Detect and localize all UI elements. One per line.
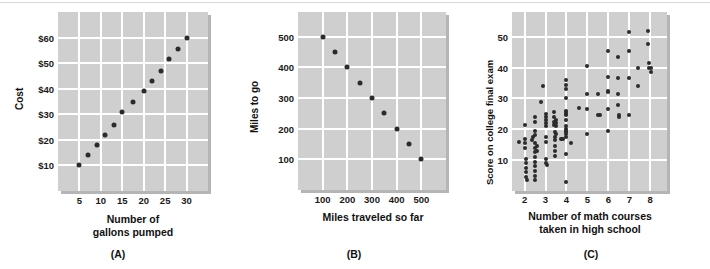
data-point xyxy=(523,137,527,141)
data-point xyxy=(357,80,362,85)
y-axis-tick-label: $30 xyxy=(16,109,54,120)
gridline-vertical xyxy=(346,12,348,190)
gridline-vertical xyxy=(628,12,630,191)
data-point xyxy=(544,124,548,128)
data-point xyxy=(150,79,155,84)
chart-c-plot-area xyxy=(512,12,667,191)
y-axis-tick-label: 10 xyxy=(474,155,508,166)
data-point xyxy=(533,115,537,119)
x-axis-tick-label: 3 xyxy=(543,194,548,205)
chart-b-caption: (B) xyxy=(236,248,472,260)
gridline-horizontal xyxy=(512,67,667,69)
data-point xyxy=(158,68,163,73)
data-point xyxy=(564,152,568,156)
gridline-horizontal xyxy=(58,62,208,64)
data-point xyxy=(533,155,537,159)
data-point xyxy=(533,178,537,182)
data-point xyxy=(77,163,82,168)
data-point xyxy=(176,47,181,52)
data-point xyxy=(86,153,91,158)
data-point xyxy=(103,132,108,137)
data-point xyxy=(606,49,610,53)
data-point xyxy=(646,29,650,33)
data-point xyxy=(524,157,528,161)
data-point xyxy=(111,122,116,127)
data-point xyxy=(569,141,573,145)
data-point xyxy=(523,141,527,145)
x-axis-tick-label: 100 xyxy=(315,194,331,205)
y-axis-tick-label: 400 xyxy=(256,62,294,73)
data-point xyxy=(544,140,548,144)
data-point xyxy=(544,157,548,161)
data-point xyxy=(616,55,620,59)
data-point xyxy=(649,66,653,70)
data-point xyxy=(553,138,557,142)
x-axis-label-line: Miles traveled so far xyxy=(278,211,468,224)
gridline-vertical xyxy=(565,12,567,191)
data-point xyxy=(525,178,529,182)
data-point xyxy=(167,57,172,62)
chart-b-plot-area xyxy=(298,12,446,190)
data-point xyxy=(585,132,589,136)
data-point xyxy=(564,113,568,117)
data-point xyxy=(553,149,557,153)
x-axis-tick-label: 10 xyxy=(96,195,107,206)
chart-a-x-axis-label: Number ofgallons pumped xyxy=(58,213,208,239)
data-point xyxy=(523,146,527,150)
chart-c-y-axis-label: Score on college final exam xyxy=(484,60,495,185)
data-point xyxy=(564,78,568,82)
x-axis-tick-label: 500 xyxy=(413,194,429,205)
y-axis-tick-label: 30 xyxy=(474,93,508,104)
data-point xyxy=(606,90,610,94)
data-point xyxy=(533,174,537,178)
data-point xyxy=(627,30,631,34)
gridline-horizontal xyxy=(298,66,446,68)
data-point xyxy=(616,76,620,80)
gridline-vertical xyxy=(586,12,588,191)
x-axis-label-line: taken in high school xyxy=(490,223,690,236)
data-point xyxy=(545,163,549,167)
x-axis-label-line: Number of xyxy=(58,213,208,226)
data-point xyxy=(94,142,99,147)
chart-c-caption: (C) xyxy=(472,248,710,260)
data-point xyxy=(333,49,338,54)
data-point xyxy=(554,132,558,136)
data-point xyxy=(647,61,651,65)
x-axis-tick-label: 30 xyxy=(181,195,192,206)
chart-b-x-axis-label: Miles traveled so far xyxy=(278,211,468,224)
y-axis-tick-label: 100 xyxy=(256,154,294,165)
data-point xyxy=(382,111,387,116)
data-point xyxy=(141,89,146,94)
data-point xyxy=(533,129,537,133)
gridline-horizontal xyxy=(512,36,667,38)
data-point xyxy=(564,96,568,100)
data-point xyxy=(564,87,568,91)
data-point xyxy=(533,164,537,168)
gridline-horizontal xyxy=(58,113,208,115)
gridline-vertical xyxy=(607,12,609,191)
x-axis-tick-label: 300 xyxy=(364,194,380,205)
gridline-vertical xyxy=(396,12,398,190)
gridline-horizontal xyxy=(58,139,208,141)
data-point xyxy=(564,118,568,122)
chart-a-caption: (A) xyxy=(0,248,236,260)
data-point xyxy=(523,123,527,127)
data-point xyxy=(606,107,610,111)
data-point xyxy=(533,133,537,137)
data-point xyxy=(419,157,424,162)
x-axis-label-line: Number of math courses xyxy=(490,210,690,223)
data-point xyxy=(616,92,620,96)
data-point xyxy=(598,113,602,117)
data-point xyxy=(585,64,589,68)
x-axis-tick-label: 25 xyxy=(160,195,171,206)
x-axis-tick-label: 6 xyxy=(606,194,611,205)
gridline-horizontal xyxy=(58,88,208,90)
y-axis-tick-label: 20 xyxy=(474,124,508,135)
y-axis-tick-label: $50 xyxy=(16,58,54,69)
data-point xyxy=(606,75,610,79)
data-point xyxy=(596,92,600,96)
data-point xyxy=(539,100,543,104)
data-point xyxy=(636,66,640,70)
chart-a-plot-area xyxy=(58,12,208,191)
data-point xyxy=(646,42,650,46)
